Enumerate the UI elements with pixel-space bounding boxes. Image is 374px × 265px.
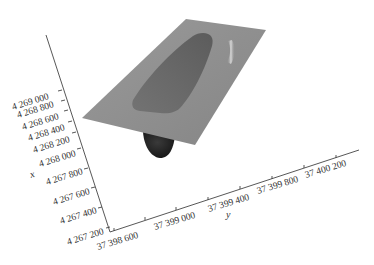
x-tick-label: 4 267 600 — [52, 186, 92, 207]
y-tick-label: 37 399 000 — [153, 210, 197, 232]
surface-plot: 4 269 000 4 268 800 4 268 600 4 268 400 … — [0, 0, 374, 265]
y-axis-title: y — [225, 209, 231, 220]
x-axis-title: x — [27, 168, 36, 180]
x-tick-label: 4 267 800 — [45, 166, 85, 187]
y-axis — [110, 150, 359, 232]
y-tick-labels: 37 398 600 37 399 000 37 399 400 37 399 … — [96, 158, 348, 252]
x-tick-label: 4 267 400 — [59, 205, 99, 226]
